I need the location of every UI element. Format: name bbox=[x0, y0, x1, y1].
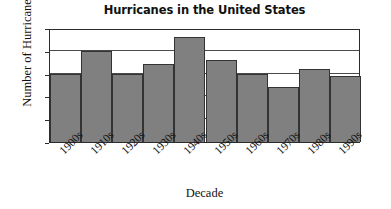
y-axis-title: Number of Hurricanes bbox=[20, 0, 35, 126]
bar-chart: Hurricanes in the United States Number o… bbox=[0, 0, 391, 209]
chart-title: Hurricanes in the United States bbox=[49, 3, 360, 17]
y-tick-mark-0 bbox=[45, 143, 49, 144]
x-axis-title: Decade bbox=[49, 186, 360, 201]
y-tick-mark-20 bbox=[45, 52, 49, 53]
y-tick-mark-15 bbox=[45, 75, 49, 76]
y-tick-mark-5 bbox=[45, 120, 49, 121]
y-tick-mark-10 bbox=[45, 97, 49, 98]
y-tick-mark-25 bbox=[45, 29, 49, 30]
